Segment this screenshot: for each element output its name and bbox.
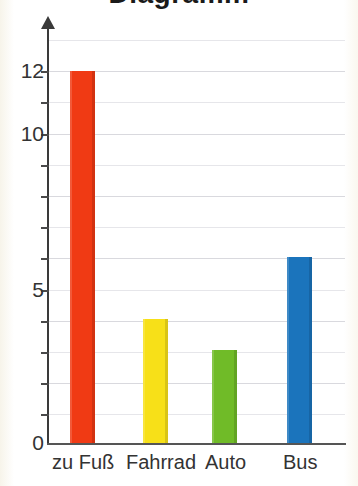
y-tick-8 bbox=[41, 196, 49, 198]
y-tick-3 bbox=[41, 352, 49, 354]
y-axis-line bbox=[47, 26, 49, 444]
y-axis-arrow-icon bbox=[41, 16, 55, 29]
x-axis-label-fahrrad: Fahrrad bbox=[126, 452, 196, 472]
y-tick-2 bbox=[41, 383, 49, 385]
y-axis-label-5: 5 bbox=[4, 279, 44, 300]
bar-fill-auto bbox=[212, 350, 237, 443]
bar-fahrrad[interactable] bbox=[143, 319, 168, 443]
bar-fill-zu-fuss bbox=[70, 71, 95, 443]
bar-chart-plot: 12 10 5 0 zu Fuß Fahrrad Auto Bus bbox=[0, 0, 358, 486]
x-axis-label-auto: Auto bbox=[205, 452, 246, 472]
bar-bus[interactable] bbox=[287, 257, 312, 443]
gridline-13 bbox=[49, 40, 345, 41]
y-tick-7 bbox=[41, 227, 49, 229]
bar-fill-fahrrad bbox=[143, 319, 168, 443]
y-axis-label-10: 10 bbox=[4, 123, 44, 144]
bar-auto[interactable] bbox=[212, 350, 237, 443]
y-tick-6 bbox=[41, 258, 49, 260]
y-tick-1 bbox=[41, 414, 49, 416]
y-axis-label-0: 0 bbox=[4, 432, 44, 453]
x-axis-label-bus: Bus bbox=[283, 452, 317, 472]
y-tick-9 bbox=[41, 165, 49, 167]
x-axis-label-zu-fuss: zu Fuß bbox=[52, 452, 114, 472]
x-axis-line bbox=[47, 443, 346, 445]
y-axis-label-12: 12 bbox=[4, 60, 44, 81]
bar-fill-bus bbox=[287, 257, 312, 443]
bar-zu-fuss[interactable] bbox=[70, 71, 95, 443]
y-tick-11 bbox=[41, 102, 49, 104]
y-tick-4 bbox=[41, 321, 49, 323]
